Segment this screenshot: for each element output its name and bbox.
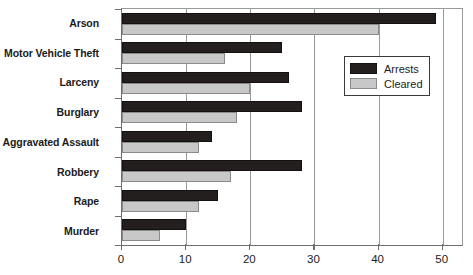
y-tick <box>115 186 122 187</box>
bar-chart: ArsonMotor Vehicle TheftLarcenyBurglaryA… <box>0 0 473 275</box>
category-label: Motor Vehicle Theft <box>0 38 108 68</box>
bar-group <box>122 186 462 216</box>
legend-swatch-icon <box>350 63 377 74</box>
legend-label: Arrests <box>384 63 419 75</box>
bar-cleared <box>122 112 237 123</box>
x-tick-label: 40 <box>371 253 384 265</box>
bar-cleared <box>122 24 379 35</box>
bar-arrests <box>122 190 218 201</box>
y-tick <box>115 39 122 40</box>
bar-cleared <box>122 230 160 241</box>
x-tick-label: 0 <box>118 253 124 265</box>
bar-arrests <box>122 13 436 24</box>
x-tick-label: 10 <box>179 253 192 265</box>
category-label: Rape <box>0 187 108 217</box>
x-tick-label: 30 <box>307 253 320 265</box>
x-tick-40 <box>378 244 379 250</box>
y-tick <box>115 98 122 99</box>
legend-item: Arrests <box>350 61 423 76</box>
bar-cleared <box>122 171 231 182</box>
y-tick <box>115 127 122 128</box>
category-label: Aggravated Assault <box>0 127 108 157</box>
bar-arrests <box>122 160 302 171</box>
bar-arrests <box>122 72 289 83</box>
bar-cleared <box>122 53 225 64</box>
x-tick-0 <box>121 244 122 250</box>
y-tick <box>115 9 122 10</box>
bar-group <box>122 216 462 246</box>
x-tick-label: 20 <box>243 253 256 265</box>
category-label: Arson <box>0 8 108 38</box>
category-label: Murder <box>0 216 108 246</box>
y-tick <box>115 157 122 158</box>
bar-group <box>122 157 462 187</box>
bar-arrests <box>122 219 186 230</box>
category-label: Robbery <box>0 157 108 187</box>
legend-label: Cleared <box>384 78 423 90</box>
y-tick <box>115 216 122 217</box>
legend-item: Cleared <box>350 76 423 91</box>
bar-cleared <box>122 201 199 212</box>
bar-cleared <box>122 142 199 153</box>
x-tick-10 <box>185 244 186 250</box>
plot-area <box>121 8 463 246</box>
category-label: Larceny <box>0 68 108 98</box>
x-tick-label: 50 <box>435 253 448 265</box>
bar-group <box>122 9 462 39</box>
legend-swatch-icon <box>350 78 377 89</box>
chart-legend: ArrestsCleared <box>344 56 430 96</box>
y-tick <box>115 68 122 69</box>
bar-arrests <box>122 131 212 142</box>
category-axis: ArsonMotor Vehicle TheftLarcenyBurglaryA… <box>0 8 108 246</box>
bar-cleared <box>122 83 250 94</box>
bar-group <box>122 127 462 157</box>
bar-group <box>122 98 462 128</box>
bar-arrests <box>122 42 282 53</box>
x-tick-50 <box>442 244 443 250</box>
x-tick-20 <box>249 244 250 250</box>
bar-arrests <box>122 101 302 112</box>
category-label: Burglary <box>0 97 108 127</box>
x-tick-30 <box>313 244 314 250</box>
